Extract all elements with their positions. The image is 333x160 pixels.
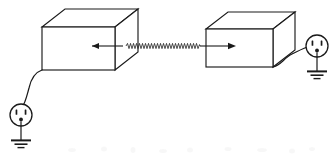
right-outlet-ground-pin xyxy=(315,49,319,53)
left-outlet-ground-pin xyxy=(19,118,23,122)
right-outlet-slot-hot xyxy=(321,41,323,46)
left-outlet-slot-neutral xyxy=(16,110,18,115)
emission-diagram xyxy=(0,0,333,160)
right-outlet-slot-neutral xyxy=(312,41,314,46)
figure-canvas xyxy=(0,0,333,160)
left-outlet-slot-hot xyxy=(25,110,27,115)
right-enclosure xyxy=(206,12,295,67)
right-enclosure-front-face xyxy=(206,29,273,67)
left-enclosure-front-face xyxy=(42,27,115,70)
left-enclosure xyxy=(42,9,138,70)
